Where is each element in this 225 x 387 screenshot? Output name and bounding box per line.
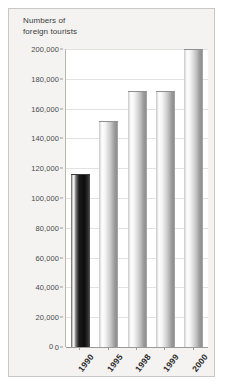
y-axis: 200,000180,000160,000140,000120,000100,0… (9, 49, 63, 347)
y-tick-mark (60, 257, 63, 258)
y-tick-mark (60, 347, 63, 348)
x-tick-label-1990: 1990 (76, 352, 96, 374)
y-tick-mark (60, 108, 63, 109)
y-tick-label: 60,000 (35, 253, 59, 262)
x-axis: 19901995199819992000 (65, 347, 207, 387)
chart-card: Numbers of foreign tourists 200,000180,0… (8, 8, 215, 377)
y-tick-label: 0 (55, 343, 59, 352)
y-tick-mark (60, 49, 63, 50)
x-tick-label-2000: 2000 (190, 352, 210, 374)
x-tick-label-1998: 1998 (133, 352, 153, 374)
bar-1990 (71, 174, 90, 347)
bar-1998 (128, 91, 147, 347)
y-tick-mark (60, 78, 63, 79)
x-tick-mark (79, 347, 80, 350)
bar-1999 (156, 91, 175, 347)
y-tick-label: 200,000 (31, 45, 59, 54)
x-tick-mark (164, 347, 165, 350)
x-tick-mark (136, 347, 137, 350)
x-tick-mark (193, 347, 194, 350)
y-tick-mark (60, 317, 63, 318)
y-tick-label: 80,000 (35, 223, 59, 232)
y-tick-label-zero: 0 (49, 342, 53, 351)
y-tick-label: 120,000 (31, 164, 59, 173)
y-tick-label: 40,000 (35, 283, 59, 292)
plot-area (65, 49, 208, 347)
y-tick-label: 140,000 (31, 134, 59, 143)
chart-title: Numbers of foreign tourists (23, 15, 143, 37)
y-tick-mark (60, 168, 63, 169)
y-tick-mark (60, 227, 63, 228)
bar-1995 (99, 121, 118, 347)
y-tick-label: 100,000 (31, 194, 59, 203)
x-tick-label-1995: 1995 (104, 352, 124, 374)
x-tick-label-1999: 1999 (161, 352, 181, 374)
x-tick-mark (108, 347, 109, 350)
y-tick-label: 180,000 (31, 74, 59, 83)
bar-2000 (184, 49, 203, 347)
y-tick-label: 160,000 (31, 104, 59, 113)
y-tick-label: 20,000 (35, 313, 59, 322)
y-tick-mark (60, 138, 63, 139)
y-tick-mark (60, 287, 63, 288)
y-tick-mark (60, 198, 63, 199)
